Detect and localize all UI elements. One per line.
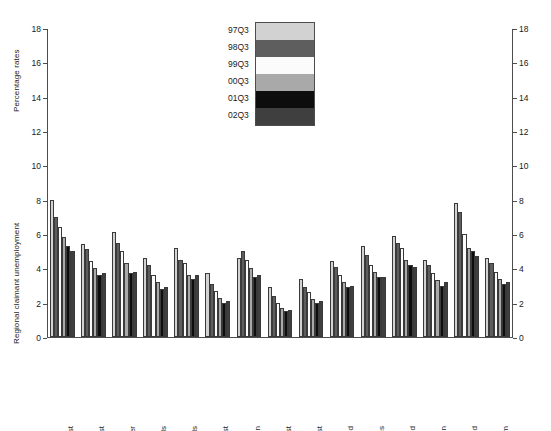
y-tick-right-10: [513, 166, 517, 167]
bar: [288, 310, 292, 337]
y-tick-right-2: [513, 304, 517, 305]
y-tick-left-4: [43, 269, 47, 270]
y-tick-left-2: [43, 304, 47, 305]
x-axis-label: Yorkshire & Humber: [128, 426, 137, 431]
x-axis-label: West Midlands: [190, 426, 199, 431]
legend-swatch: [256, 108, 314, 125]
y-tick-right-14: [513, 98, 517, 99]
y-tick-label-left-12: 12: [32, 128, 41, 137]
legend-label: 01Q3: [228, 90, 249, 107]
y-tick-label-right-6: 6: [519, 231, 524, 240]
legend-label: 00Q3: [228, 73, 249, 90]
bar-group: [112, 29, 137, 337]
bar-group: [50, 29, 75, 337]
bar-group: [174, 29, 199, 337]
y-tick-label-right-0: 0: [519, 334, 524, 343]
legend-label: 99Q3: [228, 56, 249, 73]
y-tick-label-right-16: 16: [519, 59, 528, 68]
y-tick-label-left-14: 14: [32, 94, 41, 103]
bar: [102, 273, 106, 337]
y-tick-label-left-6: 6: [36, 231, 41, 240]
x-axis-label: South West: [315, 426, 324, 431]
bar: [70, 251, 74, 337]
y-tick-left-6: [43, 235, 47, 236]
y-tick-label-left-10: 10: [32, 162, 41, 171]
legend-swatch: [256, 74, 314, 91]
bar: [195, 275, 199, 337]
x-axis-label: United Kingdom: [501, 426, 510, 431]
y-tick-label-right-8: 8: [519, 197, 524, 206]
bar: [506, 282, 510, 337]
y-tick-left-18: [43, 29, 47, 30]
x-axis-label: Wales: [377, 426, 386, 431]
y-tick-label-right-12: 12: [519, 128, 528, 137]
bar-group: [361, 29, 386, 337]
bar-group: [485, 29, 510, 337]
y-tick-label-right-2: 2: [519, 300, 524, 309]
bar: [350, 286, 354, 338]
legend-swatch: [256, 57, 314, 74]
legend-label: 97Q3: [228, 22, 249, 39]
bar-group: [81, 29, 106, 337]
bar: [444, 282, 448, 337]
legend-swatches: [255, 22, 315, 126]
legend: 97Q398Q399Q300Q301Q302Q3: [228, 22, 315, 126]
y-tick-label-left-18: 18: [32, 25, 41, 34]
x-axis-label: London: [253, 426, 262, 431]
y-tick-left-8: [43, 201, 47, 202]
y-tick-right-4: [513, 269, 517, 270]
bar: [133, 272, 137, 337]
bar: [164, 287, 168, 337]
bar-group: [454, 29, 479, 337]
x-axis-label: East Midlands: [159, 426, 168, 431]
legend-swatch: [256, 40, 314, 57]
x-axis-label: England: [346, 426, 355, 431]
legend-swatch: [256, 23, 314, 40]
y-axis-right: [512, 29, 513, 338]
y-tick-left-14: [43, 98, 47, 99]
x-axis-label: East: [221, 426, 230, 431]
y-tick-label-left-4: 4: [36, 265, 41, 274]
y-tick-label-right-4: 4: [519, 265, 524, 274]
bar: [257, 275, 261, 337]
y-tick-right-0: [513, 338, 517, 339]
bar: [226, 301, 230, 337]
x-axis-label: North East: [66, 426, 75, 431]
y-tick-right-16: [513, 63, 517, 64]
y-tick-label-left-8: 8: [36, 197, 41, 206]
bar-group: [205, 29, 230, 337]
y-tick-right-18: [513, 29, 517, 30]
bar-group: [330, 29, 355, 337]
bar-group: [392, 29, 417, 337]
y-tick-label-right-10: 10: [519, 162, 528, 171]
y-axis-title-regional-unemployment: Regional claimant unemployment: [12, 223, 21, 344]
legend-labels: 97Q398Q399Q300Q301Q302Q3: [228, 22, 249, 124]
y-tick-label-left-16: 16: [32, 59, 41, 68]
y-tick-label-left-0: 0: [36, 334, 41, 343]
x-axis-label: South East: [284, 426, 293, 431]
x-axis-label: Scotland: [408, 426, 417, 431]
bar: [319, 301, 323, 337]
y-tick-right-8: [513, 201, 517, 202]
y-tick-right-12: [513, 132, 517, 133]
y-tick-label-right-14: 14: [519, 94, 528, 103]
bar-chart: Percentage rates Regional claimant unemp…: [0, 0, 551, 431]
bar: [381, 277, 385, 337]
y-tick-left-16: [43, 63, 47, 64]
bar: [475, 256, 479, 337]
y-tick-left-0: [43, 338, 47, 339]
y-tick-left-12: [43, 132, 47, 133]
y-tick-right-6: [513, 235, 517, 236]
y-tick-label-right-18: 18: [519, 25, 528, 34]
y-axis-title-percentage-rates: Percentage rates: [12, 49, 21, 112]
x-axis-label: North West: [97, 426, 106, 431]
legend-label: 02Q3: [228, 107, 249, 124]
bar: [413, 267, 417, 337]
y-tick-left-10: [43, 166, 47, 167]
x-axis-labels: North EastNorth WestYorkshire & HumberEa…: [47, 341, 513, 429]
y-tick-label-left-2: 2: [36, 300, 41, 309]
legend-label: 98Q3: [228, 39, 249, 56]
x-axis-label: Great Britain: [439, 426, 448, 431]
x-axis: [47, 337, 513, 338]
x-axis-label: Northern Ireland: [470, 426, 479, 431]
